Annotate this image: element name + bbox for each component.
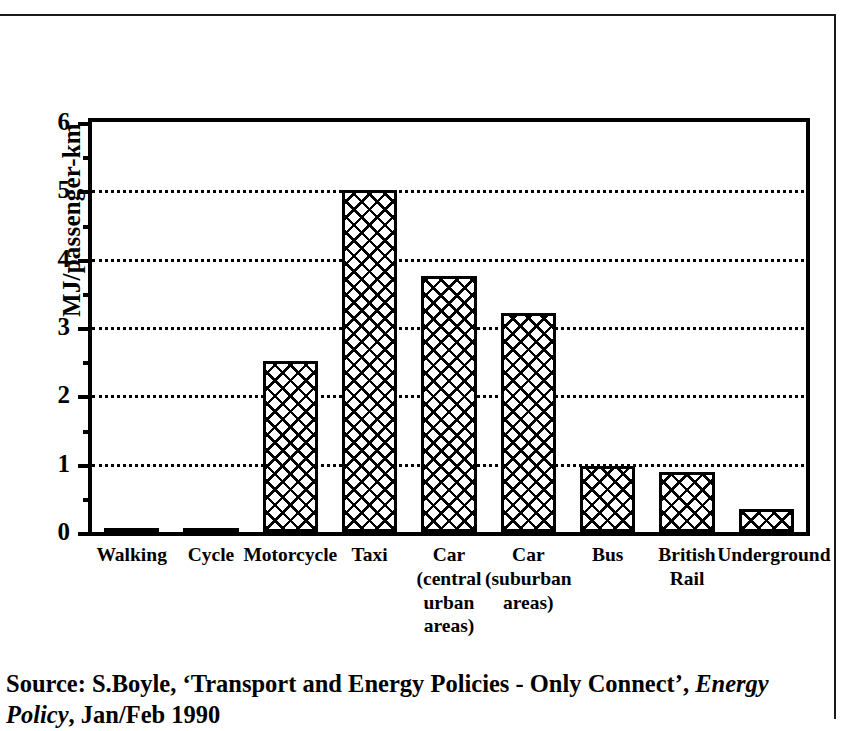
y-tick-label: 6 [26,109,70,134]
y-tick-label: 2 [26,382,70,407]
y-tick-major [78,395,92,399]
bar [263,361,319,532]
y-tick-minor [83,361,92,365]
source-journal: Energy [695,670,769,697]
y-tick-major [78,464,92,468]
bar [580,466,636,532]
x-tick-label-line: Rail [638,567,736,591]
y-tick-minor [83,430,92,434]
x-tick-label-line: Underground [717,543,815,567]
bar [501,313,557,532]
source-journal-cont: Policy [6,701,69,728]
bar-series [92,122,806,532]
y-tick-major [78,532,92,536]
source-caption: Source: S.Boyle, ‘Transport and Energy P… [6,668,796,731]
bar-chart-figure: MJ/passenger-km 0123456 WalkingCycleMoto… [0,0,846,660]
y-tick-label: 4 [26,246,70,271]
bar [739,509,795,532]
x-tick-label-line: areas) [479,591,577,615]
source-text: Source: S.Boyle, ‘Transport and Energy P… [6,670,689,697]
y-tick-label: 5 [26,177,70,202]
x-tick-label-line: areas) [400,614,498,638]
y-tick-major [78,259,92,263]
plot-inner [92,122,806,532]
x-tick-label: Underground [717,543,815,567]
bar [342,190,398,532]
bar [104,528,160,532]
bar [183,528,239,532]
bar [421,276,477,532]
x-axis-tick-labels: WalkingCycleMotorcycleTaxiCar(centralurb… [88,543,814,658]
x-tick-label-line: (suburban [479,567,577,591]
y-tick-minor [83,225,92,229]
plot-area [88,118,810,536]
y-tick-minor [83,293,92,297]
y-tick-major [78,190,92,194]
source-date: , Jan/Feb 1990 [69,701,221,728]
y-tick-major [78,327,92,331]
y-tick-major [78,122,92,126]
y-tick-label: 1 [26,451,70,476]
y-tick-minor [83,156,92,160]
y-tick-label: 0 [26,519,70,544]
bar [659,472,715,532]
y-tick-minor [83,498,92,502]
y-tick-label: 3 [26,314,70,339]
